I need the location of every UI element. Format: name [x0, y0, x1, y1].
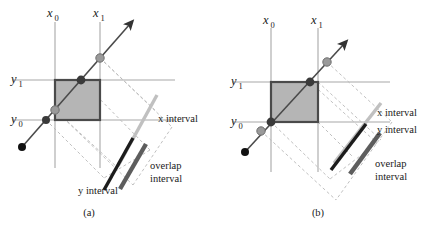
axis-label-x1-sub-b: 1	[319, 20, 323, 30]
axis-label-y1-a: y	[9, 72, 17, 86]
axis-label-x0-sub-b: 0	[271, 20, 275, 30]
y-interval-bar-a	[104, 138, 133, 190]
projection-y0-top-b	[271, 122, 330, 179]
ray-origin-dot-a	[18, 143, 26, 151]
y-interval-label-a: y interval	[78, 185, 118, 196]
axis-label-x0-a: x	[46, 6, 53, 20]
axis-label-y1-sub-b: 1	[239, 81, 243, 91]
y-interval-label-b: y interval	[377, 124, 417, 135]
axis-label-y0-a: y	[9, 112, 17, 126]
y1-hit-dot-a	[77, 76, 86, 85]
projection-x0-top-b	[261, 131, 336, 200]
axis-label-x1-a: x	[92, 6, 99, 20]
bounding-box-a	[55, 80, 100, 120]
axis-label-y0-sub-a: 0	[19, 119, 23, 129]
y0-hit-dot-b	[267, 118, 276, 127]
panel-b: x 0 x 1 y 1 y 0 x interval y interval ov…	[229, 13, 417, 219]
axis-label-x1-sub-a: 1	[101, 13, 105, 23]
ray-origin-dot-b	[241, 148, 249, 156]
projection-y1-top-b	[310, 82, 377, 143]
overlap-interval-bar-a	[120, 144, 146, 189]
x-interval-label-b: x interval	[377, 107, 417, 118]
axis-label-y1-sub-a: 1	[19, 79, 23, 89]
panel-a: x 0 x 1 y 1 y 0 x interval y interval ov…	[9, 6, 198, 219]
y0-hit-dot-a	[42, 116, 50, 124]
x1-hit-dot-a	[96, 54, 104, 62]
ray-a	[22, 24, 130, 147]
figure-container: x 0 x 1 y 1 y 0 x interval y interval ov…	[0, 0, 435, 225]
x0-hit-dot-b	[257, 127, 265, 135]
ray-box-interval-diagram: x 0 x 1 y 1 y 0 x interval y interval ov…	[0, 0, 435, 225]
overlap-interval-label-line2-a: interval	[150, 173, 182, 184]
x1-hit-dot-b	[323, 58, 331, 66]
panel-caption-b: (b)	[312, 207, 325, 219]
x-interval-label-a: x interval	[158, 113, 198, 124]
axis-label-x0-b: x	[262, 13, 269, 27]
overlap-interval-label-line1-a: overlap	[150, 160, 182, 171]
overlap-interval-label-line1-b: overlap	[375, 158, 407, 169]
overlap-interval-label-line2-b: interval	[375, 171, 407, 182]
axis-label-y0-b: y	[229, 114, 237, 128]
axis-label-y0-sub-b: 0	[239, 121, 243, 131]
projection-diag-aux-2	[100, 58, 157, 112]
y1-hit-dot-b	[306, 78, 315, 87]
panel-caption-a: (a)	[83, 207, 95, 219]
x0-hit-dot-a	[51, 106, 59, 114]
axis-label-y1-b: y	[229, 74, 237, 88]
axis-label-x0-sub-a: 0	[55, 13, 59, 23]
axis-label-x1-b: x	[310, 13, 317, 27]
